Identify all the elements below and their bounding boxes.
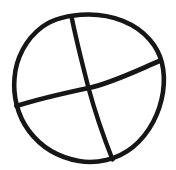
sun-cross-drawing: Sun cross symbol Hand-drawn black circle…: [0, 0, 176, 170]
figure-canvas: Sun cross symbol Hand-drawn black circle…: [0, 0, 176, 170]
